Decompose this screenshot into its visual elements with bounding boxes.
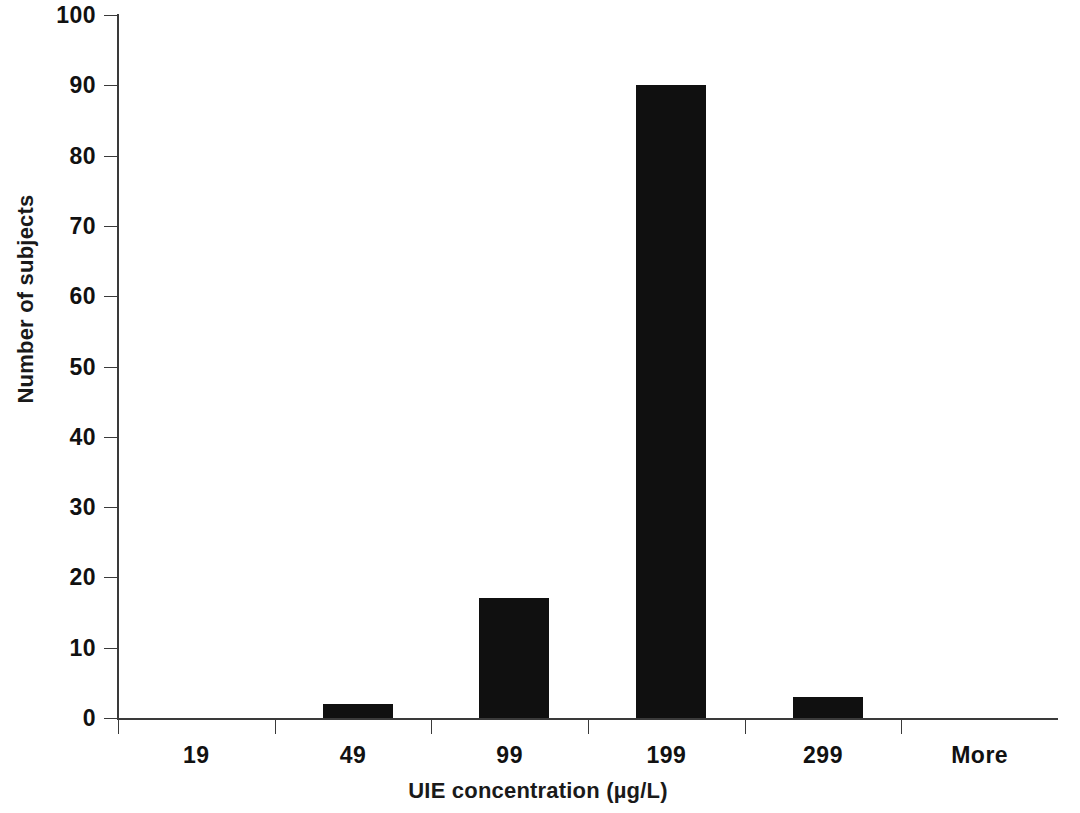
bar-chart-figure: Number of subjects 010203040506070809010… (0, 0, 1080, 813)
x-axis-tick-label: 299 (733, 742, 913, 769)
x-axis-tick (118, 719, 119, 734)
x-axis-tick-label: 199 (576, 742, 756, 769)
x-axis-tick (431, 719, 432, 734)
x-axis-tick-label: 99 (420, 742, 600, 769)
x-axis-tick-label: 49 (263, 742, 443, 769)
bar (323, 704, 393, 718)
x-axis-tick (588, 719, 589, 734)
x-axis-tick (901, 719, 902, 734)
bar (636, 85, 706, 718)
x-axis-tick (745, 719, 746, 734)
x-axis-tick-label: More (890, 742, 1070, 769)
bar (479, 598, 549, 718)
x-axis-title: UIE concentration (µg/L) (118, 778, 958, 804)
x-axis-tick (275, 719, 276, 734)
x-axis-tick-label: 19 (106, 742, 286, 769)
bar (793, 697, 863, 718)
bars-layer (0, 0, 1080, 813)
